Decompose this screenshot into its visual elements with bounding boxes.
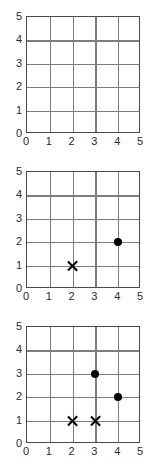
y-tick-label: 1 bbox=[8, 259, 22, 270]
y-axis-labels: 543210 bbox=[8, 326, 22, 443]
y-tick-label: 4 bbox=[8, 34, 22, 45]
x-tick-label: 1 bbox=[41, 136, 57, 147]
x-tick-label: 1 bbox=[41, 291, 57, 302]
y-tick-label: 3 bbox=[8, 212, 22, 223]
y-tick-label: 5 bbox=[8, 321, 22, 332]
x-tick-label: 4 bbox=[109, 291, 125, 302]
x-tick-label: 3 bbox=[86, 136, 102, 147]
grid-line-horizontal bbox=[27, 374, 139, 375]
x-tick-label: 3 bbox=[86, 446, 102, 457]
grid-line-horizontal bbox=[27, 350, 139, 351]
y-tick-label: 4 bbox=[8, 189, 22, 200]
y-tick-label: 2 bbox=[8, 81, 22, 92]
scatter-panel-3: 543210012345 bbox=[0, 310, 153, 465]
y-tick-label: 3 bbox=[8, 367, 22, 378]
grid-line-vertical bbox=[73, 327, 74, 442]
x-tick-label: 2 bbox=[64, 136, 80, 147]
grid-line-horizontal bbox=[27, 219, 139, 220]
x-tick-label: 4 bbox=[109, 136, 125, 147]
scatter-plot-panels: 543210012345543210012345543210012345 bbox=[0, 0, 153, 466]
grid-line-horizontal bbox=[27, 195, 139, 196]
scatter-panel-1: 543210012345 bbox=[0, 0, 153, 155]
plot-area bbox=[26, 171, 140, 288]
x-tick-label: 5 bbox=[132, 136, 148, 147]
x-axis-labels: 012345 bbox=[26, 446, 140, 460]
y-tick-label: 5 bbox=[8, 11, 22, 22]
grid-line-horizontal bbox=[27, 266, 139, 267]
y-axis-labels: 543210 bbox=[8, 16, 22, 133]
plot-area bbox=[26, 16, 140, 133]
y-tick-label: 4 bbox=[8, 344, 22, 355]
grid-line-vertical bbox=[73, 172, 74, 287]
grid-line-vertical bbox=[118, 172, 119, 287]
grid-line-horizontal bbox=[27, 64, 139, 65]
y-tick-label: 5 bbox=[8, 166, 22, 177]
grid-line-vertical bbox=[95, 327, 96, 442]
grid-line-horizontal bbox=[27, 421, 139, 422]
grid-line-vertical bbox=[118, 327, 119, 442]
x-tick-label: 0 bbox=[18, 136, 34, 147]
x-tick-label: 0 bbox=[18, 446, 34, 457]
x-tick-label: 3 bbox=[86, 291, 102, 302]
grid-line-horizontal bbox=[27, 87, 139, 88]
x-tick-label: 2 bbox=[64, 291, 80, 302]
y-axis-labels: 543210 bbox=[8, 171, 22, 288]
grid-line-vertical bbox=[50, 327, 51, 442]
grid-line-vertical bbox=[50, 172, 51, 287]
y-tick-label: 1 bbox=[8, 414, 22, 425]
grid-line-horizontal bbox=[27, 397, 139, 398]
grid-line-vertical bbox=[73, 17, 74, 132]
x-tick-label: 0 bbox=[18, 291, 34, 302]
plot-area bbox=[26, 326, 140, 443]
y-tick-label: 2 bbox=[8, 236, 22, 247]
grid-line-horizontal bbox=[27, 40, 139, 41]
grid-line-vertical bbox=[95, 172, 96, 287]
y-tick-label: 2 bbox=[8, 391, 22, 402]
x-tick-label: 1 bbox=[41, 446, 57, 457]
x-axis-labels: 012345 bbox=[26, 136, 140, 150]
y-tick-label: 1 bbox=[8, 104, 22, 115]
grid-line-vertical bbox=[118, 17, 119, 132]
scatter-panel-2: 543210012345 bbox=[0, 155, 153, 310]
grid-line-horizontal bbox=[27, 111, 139, 112]
y-tick-label: 3 bbox=[8, 57, 22, 68]
x-tick-label: 2 bbox=[64, 446, 80, 457]
x-tick-label: 4 bbox=[109, 446, 125, 457]
grid-line-horizontal bbox=[27, 242, 139, 243]
x-axis-labels: 012345 bbox=[26, 291, 140, 305]
grid-line-vertical bbox=[50, 17, 51, 132]
x-tick-label: 5 bbox=[132, 291, 148, 302]
grid-line-vertical bbox=[95, 17, 96, 132]
x-tick-label: 5 bbox=[132, 446, 148, 457]
